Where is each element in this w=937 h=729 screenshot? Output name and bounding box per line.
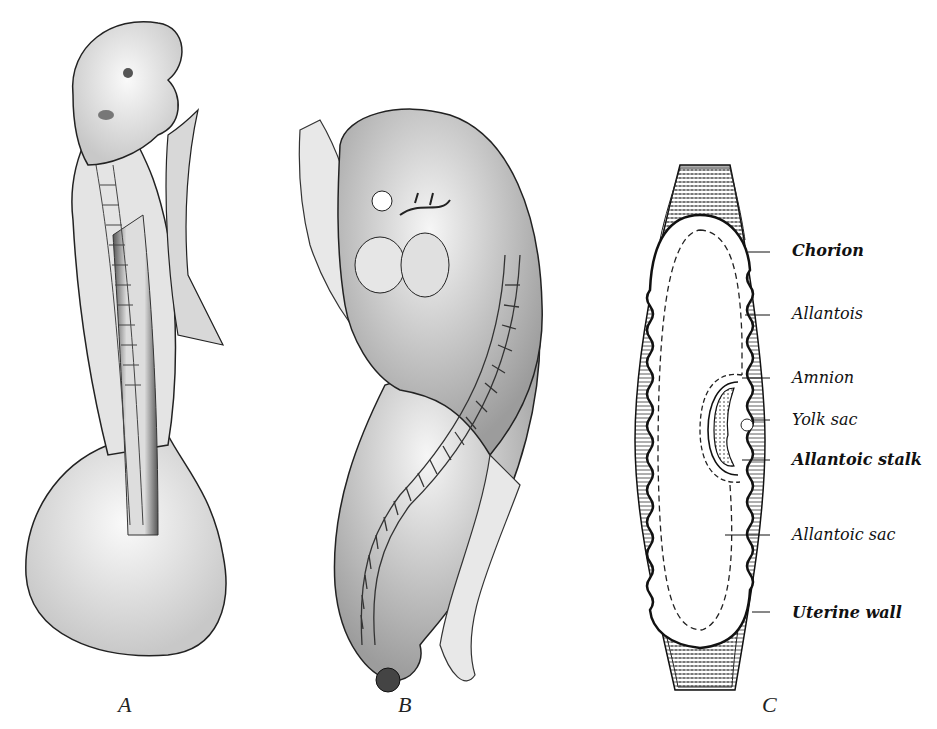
embryo-b-illustration: [290, 105, 550, 695]
leader-lines: [630, 160, 770, 700]
label-yolk-sac: Yolk sac: [792, 410, 857, 429]
label-uterine-wall: Uterine wall: [792, 603, 902, 622]
panel-letter-b: B: [398, 692, 411, 718]
label-allantoic-sac: Allantoic sac: [792, 525, 896, 544]
label-amnion: Amnion: [792, 368, 854, 387]
panel-a-embryo-drawing: [18, 15, 238, 665]
panel-letter-a: A: [118, 692, 131, 718]
label-allantoic-stalk: Allantoic stalk: [792, 450, 922, 469]
panel-b-embryo-drawing: [290, 105, 550, 695]
panel-letter-c: C: [762, 692, 777, 718]
panel-c-uterus-section: [630, 160, 770, 700]
embryo-a-illustration: [18, 15, 238, 665]
label-allantois: Allantois: [792, 304, 863, 323]
label-chorion: Chorion: [792, 241, 864, 260]
